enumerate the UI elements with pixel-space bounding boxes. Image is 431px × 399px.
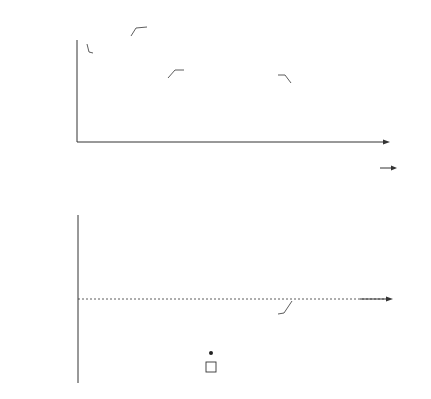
bottom-x-arrow-icon	[386, 297, 393, 302]
annotation-leader-zero-crossing	[278, 301, 292, 314]
legend-second-marker-icon	[206, 362, 216, 372]
annotation-leader-step	[278, 75, 291, 83]
annotation-leader-constant	[87, 44, 93, 53]
annotation-leader-transition	[131, 27, 147, 36]
top-x-arrow-icon	[383, 140, 390, 145]
scan-table	[380, 166, 397, 171]
scan-arrow-icon	[391, 166, 397, 171]
top-chart	[77, 27, 390, 145]
bottom-chart	[78, 215, 393, 383]
legend-first-marker-icon	[209, 351, 213, 355]
annotation-leader-ramp	[168, 70, 184, 78]
